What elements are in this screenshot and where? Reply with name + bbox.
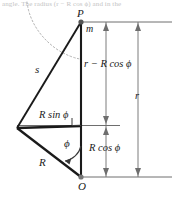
inner-arrow-up-mid — [103, 127, 109, 135]
label-point-p: P — [77, 8, 84, 19]
label-side-s: s — [35, 64, 39, 75]
inner-arrow-up-top — [103, 23, 109, 31]
side-radius-line — [17, 128, 81, 177]
point-p-dot — [78, 19, 83, 24]
outer-arrow-up-top — [135, 23, 141, 31]
outer-arrow-down-bottom — [135, 168, 141, 176]
label-radius-big-r: R — [39, 157, 46, 168]
right-angle-marker — [72, 118, 81, 126]
label-vertical-lower: R cos ϕ — [89, 143, 120, 154]
label-point-o: O — [78, 181, 86, 192]
label-total-r: r — [135, 91, 139, 102]
dashed-arc-curve — [27, 2, 80, 59]
inner-arrow-down-mid — [103, 116, 109, 124]
label-mass-m: m — [86, 24, 93, 34]
label-horizontal-rsin: R sin ϕ — [39, 110, 68, 121]
side-rsin-line — [17, 126, 81, 128]
angle-phi-arrowhead — [65, 158, 72, 165]
label-vertical-upper: r − R cos ϕ — [84, 59, 132, 70]
figure-page: angle. The radius (r − R cos ϕ) and in t… — [0, 0, 176, 198]
label-angle-phi: ϕ — [64, 138, 70, 149]
inner-arrow-down-bottom — [103, 168, 109, 176]
point-o-dot — [78, 174, 83, 179]
